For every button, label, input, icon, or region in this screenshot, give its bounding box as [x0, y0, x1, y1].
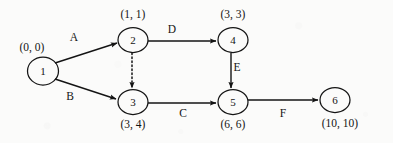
edge-D-label: D: [168, 24, 176, 36]
node-4-label: 4: [230, 35, 236, 46]
node-1-time-label: (0, 0): [20, 42, 45, 54]
edge-E-label: E: [233, 62, 240, 74]
diagram-canvas: 1 2 3 4 5 6 (0, 0) (1, 1) (3, 4) (3, 3) …: [0, 0, 393, 143]
node-4-time-label: (3, 3): [221, 9, 246, 21]
node-6-time-label: (10, 10): [322, 118, 358, 130]
node-6-label: 6: [332, 95, 338, 106]
edge-C-label: C: [179, 108, 187, 120]
node-3-label: 3: [130, 97, 136, 108]
edge-B-line[interactable]: [55, 79, 116, 99]
node-5-time-label: (6, 6): [221, 119, 246, 131]
node-5-label: 5: [230, 97, 236, 108]
edge-F-label: F: [280, 108, 286, 120]
edge-B-label: B: [66, 91, 74, 103]
node-3-time-label: (3, 4): [121, 119, 146, 131]
node-2-time-label: (1, 1): [121, 9, 146, 21]
edge-lines: [55, 41, 318, 103]
edge-A-label: A: [70, 32, 78, 44]
node-1-label: 1: [40, 66, 46, 77]
edge-A-line[interactable]: [55, 43, 117, 63]
node-2-label: 2: [130, 35, 136, 46]
